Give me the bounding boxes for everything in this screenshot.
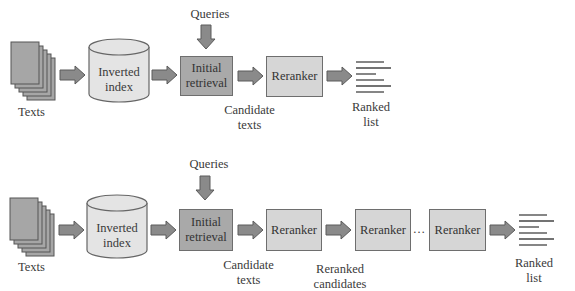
ranked-list-label: Ranked list: [350, 100, 392, 130]
inverted-index-label: Inverted index: [88, 65, 150, 95]
arrow-down-icon: [197, 25, 215, 51]
initial-retrieval-box: Initial retrieval: [180, 56, 233, 96]
reranked-candidates-label: Reranked candidates: [305, 262, 375, 291]
diagram-multi-stage: Texts Inverted index Queries Initial ret…: [0, 148, 575, 291]
arrow-right-icon: [327, 67, 353, 85]
ranked-list-icon: [354, 60, 394, 96]
queries-label: Queries: [184, 157, 234, 172]
reranker-box-3: Reranker: [429, 209, 486, 251]
ellipsis-label: …: [412, 222, 426, 237]
ranked-list-label: Ranked list: [512, 256, 556, 286]
inverted-index-label: Inverted index: [86, 221, 148, 251]
candidate-texts-label: Candidate texts: [221, 258, 276, 288]
reranker-box: Reranker: [266, 56, 323, 97]
initial-retrieval-box: Initial retrieval: [179, 209, 233, 251]
texts-label: Texts: [18, 105, 45, 120]
arrow-right-icon: [238, 67, 264, 85]
arrow-right-icon: [326, 221, 352, 239]
documents-stack-icon: [0, 148, 70, 258]
arrow-right-icon: [151, 221, 177, 239]
arrow-right-icon: [152, 66, 178, 84]
arrow-right-icon: [59, 221, 85, 239]
candidate-texts-label: Candidate texts: [222, 103, 277, 133]
queries-label: Queries: [185, 7, 235, 22]
diagram-single-stage: Texts Inverted index Queries Initial ret…: [0, 0, 575, 145]
texts-label: Texts: [18, 260, 45, 275]
reranker-box-1: Reranker: [266, 209, 322, 251]
arrow-right-icon: [490, 221, 516, 239]
arrow-down-icon: [196, 176, 214, 202]
arrow-right-icon: [60, 66, 86, 84]
arrow-right-icon: [238, 221, 264, 239]
reranker-box-2: Reranker: [355, 209, 411, 251]
documents-stack-icon: [0, 0, 70, 110]
ranked-list-icon: [517, 213, 557, 249]
